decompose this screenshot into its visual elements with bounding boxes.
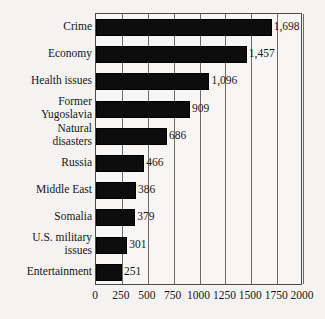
bar-value-label: 1,698 — [271, 17, 300, 35]
gridline-2000 — [303, 14, 304, 284]
bar — [96, 46, 247, 63]
bar — [96, 264, 122, 281]
bar-value-label: 909 — [189, 99, 209, 117]
bar-value-label: 1,096 — [208, 71, 237, 89]
tick-label: 1250 — [213, 288, 236, 302]
category-label: Crime — [0, 20, 92, 33]
bar — [96, 128, 167, 145]
category-label: Health issues — [0, 74, 92, 87]
bar-band — [96, 204, 301, 231]
category-label: Somalia — [0, 210, 92, 223]
bar-value-label: 686 — [166, 126, 186, 144]
bar — [96, 101, 190, 118]
category-label: Former Yugoslavia — [0, 95, 92, 121]
category-label: Natural disasters — [0, 122, 92, 148]
bar-value-label: 386 — [135, 180, 155, 198]
bar-band — [96, 177, 301, 204]
tick-label: 250 — [112, 288, 129, 302]
bar — [96, 182, 136, 199]
tick-label: 750 — [164, 288, 181, 302]
bar-band — [96, 68, 301, 95]
tick-label: 500 — [138, 288, 155, 302]
bar — [96, 209, 135, 226]
bar — [96, 155, 144, 172]
bar — [96, 237, 127, 254]
tick-label: 2000 — [291, 288, 314, 302]
category-label: Russia — [0, 156, 92, 169]
bar-value-label: 466 — [143, 153, 163, 171]
tick-label: 1500 — [239, 288, 262, 302]
bar — [96, 19, 272, 36]
bar-value-label: 301 — [126, 235, 146, 253]
tick-label: 1750 — [265, 288, 288, 302]
tick-label: 0 — [92, 288, 98, 302]
category-label: Entertainment — [0, 265, 92, 278]
bar-band — [96, 123, 301, 150]
bar-band — [96, 150, 301, 177]
category-label: Economy — [0, 47, 92, 60]
bar-value-label: 379 — [134, 207, 154, 225]
tick-label: 1000 — [187, 288, 210, 302]
category-label: Middle East — [0, 183, 92, 196]
bar-value-label: 1,457 — [246, 44, 275, 62]
bar-chart: CrimeEconomyHealth issuesFormer Yugoslav… — [0, 0, 325, 319]
category-label: U.S. military issues — [0, 231, 92, 257]
bar-value-label: 251 — [121, 262, 141, 280]
bar — [96, 73, 209, 90]
